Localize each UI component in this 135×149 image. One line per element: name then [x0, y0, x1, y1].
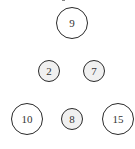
node-label: 2: [46, 65, 52, 77]
node-label: 15: [113, 113, 124, 125]
node-label: 10: [22, 113, 33, 125]
node-bottom-center: 8: [61, 108, 83, 130]
node-label: 8: [69, 113, 75, 125]
node-label: 7: [91, 65, 97, 77]
node-mid-left: 2: [38, 60, 60, 82]
top-edge-mark: [62, 0, 65, 1]
node-mid-right: 7: [83, 60, 105, 82]
node-bottom-left: 10: [11, 103, 43, 135]
node-bottom-right: 15: [102, 103, 134, 135]
node-top: 9: [56, 7, 88, 39]
node-label: 9: [69, 17, 75, 29]
